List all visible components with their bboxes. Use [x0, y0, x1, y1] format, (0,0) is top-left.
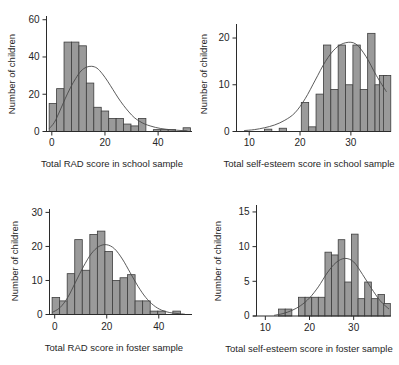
y-axis-title: Number of children — [9, 221, 20, 301]
histogram-bar — [158, 311, 166, 314]
histogram-bar — [97, 231, 105, 314]
histogram-bar — [120, 278, 128, 315]
histogram-bar — [358, 299, 365, 316]
y-tick-label: 20 — [218, 32, 230, 43]
y-tick-label: 40 — [28, 51, 40, 62]
histogram-bar — [318, 297, 325, 316]
plot-area-selfesteem-foster — [274, 234, 390, 316]
chart-svg-selfesteem-foster: 051015 102030 Number of children Total s… — [199, 183, 399, 365]
histogram-bar — [71, 42, 78, 131]
histogram-bar — [323, 45, 330, 131]
histogram-bar — [90, 235, 98, 315]
histogram-bar — [101, 111, 108, 131]
histogram-bar — [383, 75, 390, 131]
x-tick-label: 10 — [244, 137, 256, 148]
histogram-bar — [312, 297, 319, 316]
histogram-bar — [331, 89, 338, 131]
histogram-bar — [79, 46, 86, 132]
chart-svg-selfesteem-school: 01020 102030 Number of children Total se… — [199, 0, 399, 182]
y-tick-label: 15 — [238, 206, 250, 217]
histogram-figure: 0204060 02040 Number of children Total R… — [0, 0, 399, 365]
histogram-bar — [105, 252, 113, 315]
x-tick-label: 30 — [345, 137, 357, 148]
chart-panel-selfesteem-foster: 051015 102030 Number of children Total s… — [199, 183, 399, 365]
x-tick-label: 40 — [153, 321, 165, 332]
histogram-bar — [86, 83, 93, 131]
x-tick-label: 0 — [49, 137, 55, 148]
histogram-bar — [371, 299, 378, 316]
y-tick-label: 0 — [37, 309, 43, 320]
bars-group — [49, 42, 190, 131]
x-axis-title: Total RAD score in foster sample — [45, 342, 183, 353]
y-ticks: 01020 — [218, 32, 236, 136]
chart-panel-selfesteem-school: 01020 102030 Number of children Total se… — [199, 0, 399, 182]
histogram-bar — [150, 311, 158, 314]
chart-svg-rad-foster: 0102030 02040 Number of children Total R… — [0, 183, 200, 365]
chart-panel-rad-school: 0204060 02040 Number of children Total R… — [0, 0, 200, 182]
y-ticks: 0204060 — [28, 14, 46, 137]
x-tick-label: 20 — [294, 137, 306, 148]
y-tick-label: 30 — [31, 207, 43, 218]
y-tick-label: 20 — [31, 241, 43, 252]
x-tick-label: 0 — [52, 321, 58, 332]
histogram-bar — [112, 280, 120, 314]
x-tick-label: 20 — [101, 321, 113, 332]
histogram-bar — [346, 85, 353, 132]
chart-svg-rad-school: 0204060 02040 Number of children Total R… — [0, 0, 200, 182]
x-ticks: 02040 — [52, 315, 165, 333]
x-tick-label: 30 — [348, 322, 360, 333]
y-tick-label: 10 — [238, 241, 250, 252]
x-tick-label: 20 — [99, 137, 111, 148]
y-tick-label: 10 — [31, 275, 43, 286]
y-axis-title: Number of children — [212, 221, 223, 301]
plot-area-selfesteem-school — [244, 33, 391, 131]
x-tick-label: 40 — [153, 137, 165, 148]
y-tick-label: 0 — [34, 126, 40, 137]
histogram-bar — [360, 89, 367, 131]
y-axis-title: Number of children — [199, 34, 209, 114]
x-tick-label: 20 — [304, 322, 316, 333]
histogram-bar — [138, 118, 145, 131]
histogram-bar — [351, 234, 358, 316]
histogram-bar — [309, 127, 316, 132]
histogram-bar — [305, 297, 312, 316]
y-tick-label: 5 — [244, 276, 250, 287]
y-tick-label: 20 — [28, 89, 40, 100]
histogram-bar — [279, 309, 286, 316]
histogram-bar — [67, 274, 75, 315]
chart-panel-rad-foster: 0102030 02040 Number of children Total R… — [0, 183, 200, 365]
histogram-bar — [94, 107, 101, 131]
y-axis-title: Number of children — [6, 34, 17, 114]
histogram-bar — [368, 33, 375, 131]
x-tick-label: 10 — [260, 322, 272, 333]
histogram-bar — [316, 94, 323, 131]
histogram-bar — [124, 124, 131, 131]
histogram-bar — [82, 270, 90, 314]
x-axis-title: Total self-esteem score in foster sample — [225, 343, 392, 354]
x-ticks: 102030 — [244, 132, 357, 149]
y-tick-label: 0 — [224, 126, 230, 137]
bars-group — [264, 33, 390, 131]
histogram-bar — [353, 45, 360, 131]
y-tick-label: 60 — [28, 14, 40, 25]
plot-area-rad-school — [49, 42, 190, 131]
plot-area-rad-foster — [52, 231, 185, 314]
histogram-bar — [338, 45, 345, 131]
histogram-bar — [135, 301, 143, 315]
histogram-bar — [338, 240, 345, 316]
y-ticks: 051015 — [238, 206, 256, 321]
bars-group — [52, 231, 180, 314]
histogram-bar — [325, 252, 332, 316]
bars-group — [279, 234, 391, 316]
y-tick-label: 10 — [218, 79, 230, 90]
histogram-bar — [128, 275, 136, 315]
histogram-bar — [60, 301, 68, 315]
histogram-bar — [64, 42, 71, 131]
x-axis-title: Total RAD score in school sample — [41, 158, 183, 169]
histogram-bar — [143, 301, 151, 315]
y-tick-label: 0 — [244, 310, 250, 321]
histogram-bar — [345, 282, 352, 316]
histogram-bar — [116, 118, 123, 131]
x-ticks: 102030 — [260, 316, 360, 333]
x-axis-title: Total self-esteem score in school sample — [223, 158, 394, 169]
